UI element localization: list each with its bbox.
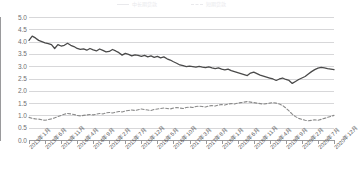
x-axis-tick	[334, 140, 335, 144]
x-axis-tick	[190, 140, 191, 144]
x-axis-tick	[254, 140, 255, 144]
x-axis-tick	[157, 140, 158, 144]
x-axis-tick	[141, 140, 142, 144]
x-axis-tick	[61, 140, 62, 144]
x-axis-tick	[286, 140, 287, 144]
x-axis-tick	[29, 140, 30, 144]
x-axis-tick	[318, 140, 319, 144]
x-axis-tick	[45, 140, 46, 144]
x-axis-tick	[109, 140, 110, 144]
x-axis-tick	[93, 140, 94, 144]
x-axis-tick	[77, 140, 78, 144]
x-axis-tick	[302, 140, 303, 144]
x-axis-tick	[206, 140, 207, 144]
x-axis-tick	[125, 140, 126, 144]
x-axis-tick	[238, 140, 239, 144]
x-axis-tick	[173, 140, 174, 144]
x-axis-tick	[222, 140, 223, 144]
x-axis-tick	[270, 140, 271, 144]
